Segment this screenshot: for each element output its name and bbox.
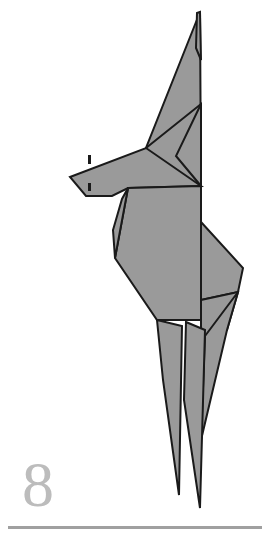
book-page: 8	[0, 0, 267, 553]
tail-point-right	[184, 322, 205, 508]
beak-reference-tick-lower-icon	[88, 183, 91, 191]
beak-reference-tick-upper-icon	[88, 155, 91, 164]
tail-point-left	[157, 320, 182, 495]
page-number: 8	[22, 452, 82, 518]
footer-rule	[8, 526, 262, 529]
body-panel	[115, 186, 201, 320]
rear-wing-flap-panel	[201, 222, 243, 300]
